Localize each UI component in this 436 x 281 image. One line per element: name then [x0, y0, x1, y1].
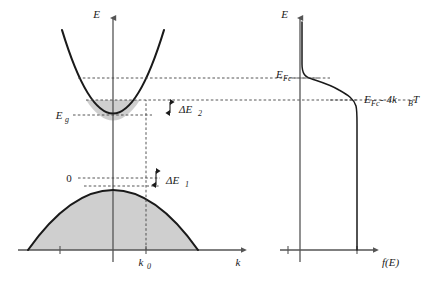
fermi-level-label: E Fc — [275, 68, 292, 83]
right-energy-axis-label: E — [280, 8, 288, 20]
fermi-dirac-curve — [302, 22, 357, 250]
svg-text:1: 1 — [185, 180, 189, 189]
k0-tick-label: k 0 — [139, 256, 151, 271]
svg-text:E: E — [363, 93, 371, 105]
svg-text:E: E — [275, 68, 283, 80]
left-k-axis-label: k — [236, 256, 242, 268]
svg-text:- 4k: - 4k — [380, 93, 398, 105]
svg-text:0: 0 — [147, 262, 151, 271]
svg-text:g: g — [65, 115, 69, 124]
svg-text:ΔE: ΔE — [165, 174, 179, 186]
svg-text:T: T — [413, 93, 420, 105]
valence-top-zero-label: 0 — [66, 172, 72, 184]
fermi-minus-4kt-label: E Fc - 4k B T — [363, 93, 420, 108]
bandgap-label: E g — [55, 109, 69, 124]
svg-text:Fc: Fc — [370, 99, 380, 108]
delta-e2-label: ΔE 2 — [178, 103, 202, 118]
right-f-axis-label: f(E) — [382, 256, 399, 269]
svg-text:E: E — [55, 109, 63, 121]
band-diagram-figure: E k k 0 E g 0 ΔE 2 ΔE 1 — [0, 0, 436, 281]
svg-text:2: 2 — [198, 109, 202, 118]
svg-text:Fc: Fc — [282, 74, 292, 83]
svg-text:ΔE: ΔE — [178, 103, 192, 115]
svg-text:k: k — [139, 256, 145, 268]
left-energy-axis-label: E — [92, 8, 100, 20]
diagram-canvas: E k k 0 E g 0 ΔE 2 ΔE 1 — [0, 0, 436, 281]
